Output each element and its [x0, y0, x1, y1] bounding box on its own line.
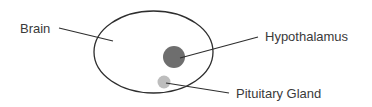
hypothalamus-label: Hypothalamus	[265, 30, 348, 43]
brain-leader-line	[59, 28, 113, 41]
pituitary-gland-label: Pituitary Gland	[236, 87, 321, 100]
pituitary-circle	[158, 76, 171, 89]
brain-outline	[94, 11, 213, 93]
hypothalamus-leader-line	[180, 37, 258, 58]
pituitary-leader-line	[166, 83, 229, 93]
brain-label: Brain	[20, 22, 50, 35]
